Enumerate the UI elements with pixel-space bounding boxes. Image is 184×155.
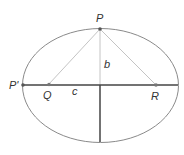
line-p-r bbox=[100, 29, 156, 85]
ellipse-diagram: P P' Q R b c bbox=[0, 0, 184, 155]
label-c: c bbox=[72, 86, 78, 97]
label-p: P bbox=[96, 13, 103, 24]
point-p bbox=[98, 27, 102, 31]
label-r: R bbox=[151, 91, 159, 102]
label-p-prime: P' bbox=[9, 80, 18, 91]
label-q: Q bbox=[43, 90, 52, 101]
point-p-prime bbox=[21, 83, 25, 87]
diagram-canvas bbox=[0, 0, 184, 155]
label-b: b bbox=[104, 59, 110, 70]
line-p-q bbox=[49, 29, 100, 84]
point-q bbox=[47, 83, 51, 87]
point-r bbox=[154, 83, 158, 87]
